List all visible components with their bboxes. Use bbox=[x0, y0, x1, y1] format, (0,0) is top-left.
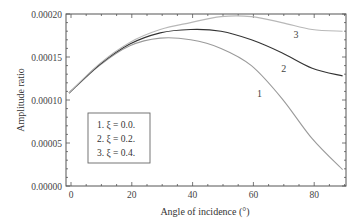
x-tick-label: 40 bbox=[188, 190, 198, 200]
curve-label: 2 bbox=[281, 63, 286, 74]
line-chart: 0204060800.000000.000050.000100.000150.0… bbox=[0, 0, 361, 224]
x-axis-title: Angle of incidence (°) bbox=[160, 206, 249, 218]
y-tick-label: 0.00020 bbox=[31, 10, 62, 20]
x-tick-label: 0 bbox=[69, 190, 74, 200]
curve-label: 3 bbox=[293, 29, 298, 40]
curve-labels: 123 bbox=[257, 29, 298, 99]
legend-entry: 3. ξ = 0.4. bbox=[97, 148, 135, 159]
curve-label: 1 bbox=[257, 88, 262, 99]
curve-2 bbox=[69, 29, 343, 93]
x-tick-label: 20 bbox=[127, 190, 137, 200]
legend-entry: 1. ξ = 0.0. bbox=[97, 120, 135, 131]
x-tick-label: 80 bbox=[309, 190, 319, 200]
y-tick-label: 0.00000 bbox=[31, 182, 62, 192]
y-axis-title: Amplitude ratio bbox=[15, 68, 26, 132]
x-tick-label: 60 bbox=[249, 190, 259, 200]
y-tick-label: 0.00010 bbox=[31, 96, 62, 106]
legend-entry: 2. ξ = 0.2. bbox=[97, 134, 135, 145]
y-tick-label: 0.00005 bbox=[31, 139, 62, 149]
curve-3 bbox=[69, 16, 343, 93]
y-tick-label: 0.00015 bbox=[31, 53, 62, 63]
legend: 1. ξ = 0.0.2. ξ = 0.2.3. ξ = 0.4. bbox=[88, 113, 150, 163]
